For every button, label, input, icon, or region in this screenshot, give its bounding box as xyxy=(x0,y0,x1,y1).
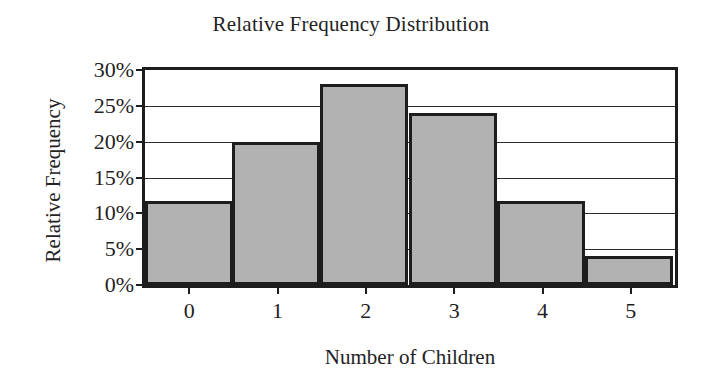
x-tick-label-0: 0 xyxy=(184,298,195,324)
bar-0 xyxy=(145,201,233,285)
relative-frequency-histogram: Relative Frequency Distribution Relative… xyxy=(0,0,702,387)
y-tick-mark xyxy=(136,212,145,214)
y-tick-mark xyxy=(136,105,145,107)
x-tick-mark xyxy=(542,285,544,294)
bar-1 xyxy=(232,142,320,285)
x-tick-label-5: 5 xyxy=(625,298,636,324)
bar-2 xyxy=(320,84,408,285)
y-tick-label: 0% xyxy=(105,272,134,298)
bar-3 xyxy=(409,113,497,285)
y-axis-title: Relative Frequency xyxy=(41,66,66,296)
x-tick-label-1: 1 xyxy=(272,298,283,324)
y-tick-label: 10% xyxy=(94,200,134,226)
x-tick-mark xyxy=(453,285,455,294)
chart-title: Relative Frequency Distribution xyxy=(0,12,702,37)
y-tick-mark xyxy=(136,248,145,250)
x-tick-mark xyxy=(630,285,632,294)
y-tick-label: 20% xyxy=(94,129,134,155)
y-tick-mark xyxy=(136,141,145,143)
gridline xyxy=(145,106,675,107)
bar-4 xyxy=(497,201,585,285)
y-tick-label: 5% xyxy=(105,236,134,262)
x-tick-mark xyxy=(365,285,367,294)
x-tick-label-4: 4 xyxy=(537,298,548,324)
x-tick-mark xyxy=(188,285,190,294)
x-axis-title: Number of Children xyxy=(142,345,678,370)
y-tick-mark xyxy=(136,284,145,286)
bar-5 xyxy=(585,256,673,285)
x-tick-mark xyxy=(277,285,279,294)
x-tick-label-2: 2 xyxy=(360,298,371,324)
plot-area: 0%5%10%15%20%25%30% 012345 xyxy=(142,67,678,288)
y-tick-label: 25% xyxy=(94,93,134,119)
y-tick-label: 30% xyxy=(94,57,134,83)
y-tick-mark xyxy=(136,69,145,71)
y-tick-label: 15% xyxy=(94,165,134,191)
x-tick-label-3: 3 xyxy=(449,298,460,324)
y-tick-mark xyxy=(136,177,145,179)
